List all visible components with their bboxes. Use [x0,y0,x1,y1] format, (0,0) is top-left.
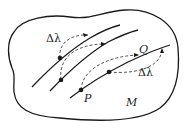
manifold-boundary [9,10,179,120]
point-dot-p [79,88,84,93]
delta-lambda-label-1: Δλ [46,32,61,45]
delta-lambda-label-2: Δλ [138,66,153,79]
point-p-label: P [83,92,92,105]
manifold-diagram: Δλ Δλ Q P M [0,0,185,132]
integral-curve-3 [70,45,170,98]
point-dot-1 [58,56,63,61]
arrowhead-1 [83,33,88,37]
point-dot-2 [59,78,64,83]
dashed-arrow-4 [109,50,162,72]
point-q-label: Q [139,43,148,56]
manifold-label: M [125,96,138,109]
dashed-arrow-2 [61,44,105,80]
dashed-arrow-1 [60,35,88,58]
point-dot-4 [107,70,112,75]
